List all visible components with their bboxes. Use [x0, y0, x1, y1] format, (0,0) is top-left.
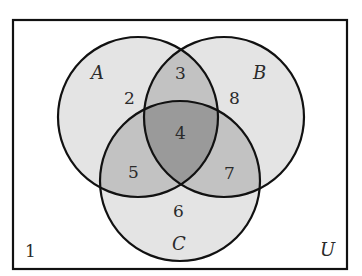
- region-value-b-only: 8: [229, 88, 240, 108]
- venn-diagram: A B C U 2 3 8 4 5 7 6 1: [0, 0, 362, 276]
- set-label-c: C: [172, 233, 186, 254]
- region-value-b-and-c: 7: [224, 163, 235, 183]
- universe-label: U: [320, 239, 336, 260]
- region-value-a-and-c: 5: [128, 162, 139, 182]
- region-value-a-b-c: 4: [175, 123, 186, 143]
- region-value-a-and-b: 3: [175, 63, 186, 83]
- region-value-c-only: 6: [173, 201, 184, 221]
- set-label-b: B: [252, 62, 266, 83]
- region-value-a-only: 2: [124, 88, 135, 108]
- region-value-outside: 1: [25, 241, 36, 261]
- set-label-a: A: [89, 62, 104, 83]
